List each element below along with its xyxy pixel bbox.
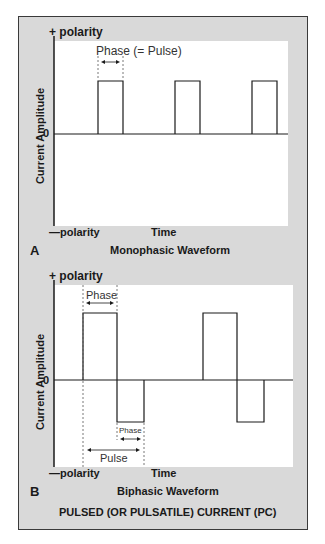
panel-b-waveform: [0, 0, 325, 544]
